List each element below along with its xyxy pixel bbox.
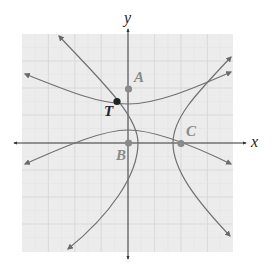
coordinate-plane [0, 0, 273, 269]
label-a: A [134, 70, 144, 85]
point-t [113, 98, 120, 105]
coordinate-plane-figure: y x A B C T [0, 0, 273, 269]
point-c [177, 140, 184, 147]
label-t: T [104, 104, 113, 119]
label-b: B [116, 148, 126, 163]
point-a [125, 85, 132, 92]
y-axis-label: y [124, 10, 131, 26]
label-c: C [186, 124, 196, 139]
x-axis-label: x [251, 134, 258, 150]
point-b [125, 139, 132, 146]
